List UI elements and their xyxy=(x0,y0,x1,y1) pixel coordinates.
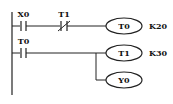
contact-t1-nc: T1 xyxy=(58,9,70,31)
contact-t0-no: T0 xyxy=(18,36,30,58)
contact-x0-no: X0 xyxy=(18,9,30,31)
rung-2: T0 T1 K30 Y0 xyxy=(12,36,168,88)
coil-y0: Y0 xyxy=(106,72,142,88)
contact-label: T1 xyxy=(58,9,70,19)
coil-label: T0 xyxy=(118,21,130,31)
coil-label: T1 xyxy=(118,48,130,58)
ladder-diagram: X0 T1 T0 K20 T0 T1 K30 xyxy=(0,0,173,104)
contact-label: T0 xyxy=(18,36,30,46)
contact-label: X0 xyxy=(18,9,30,19)
coil-t0: T0 xyxy=(106,18,142,34)
rung-1: X0 T1 T0 K20 xyxy=(12,9,168,34)
timer-setting: K20 xyxy=(149,21,168,31)
timer-setting: K30 xyxy=(149,48,168,58)
coil-label: Y0 xyxy=(117,75,130,85)
coil-t1: T1 xyxy=(106,45,142,61)
